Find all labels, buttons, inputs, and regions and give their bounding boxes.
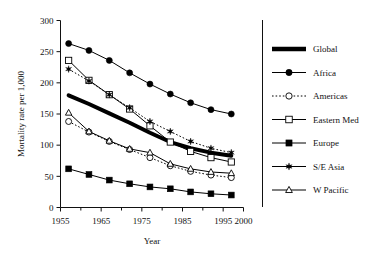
- mortality-rate-line-chart: 0501001502002503001955196519751985199520…: [0, 0, 389, 263]
- data-point-marker: [167, 139, 173, 145]
- y-axis-tick-label: 0: [49, 203, 54, 213]
- legend-label: Eastern Med: [313, 115, 359, 125]
- data-point-marker: [127, 70, 133, 76]
- x-axis-tick-label: 2000: [235, 216, 254, 226]
- data-point-marker: [188, 100, 194, 106]
- data-point-marker: [106, 57, 112, 63]
- x-axis-tick-label: 1955: [52, 216, 71, 226]
- y-axis-tick-label: 200: [40, 78, 54, 88]
- data-point-marker: [167, 91, 173, 97]
- data-point-marker: [86, 47, 92, 53]
- y-axis-title-text: Mortality rate per 1,000: [16, 71, 26, 157]
- x-axis-title: Year: [144, 236, 161, 246]
- legend-label: Africa: [313, 68, 336, 78]
- legend-label: Americas: [313, 91, 348, 101]
- data-point-marker: [228, 192, 234, 198]
- data-point-marker: [208, 107, 214, 113]
- x-axis-tick-label: 1985: [174, 216, 193, 226]
- y-axis-title: Mortality rate per 1,000: [16, 71, 26, 157]
- legend-label: Global: [313, 44, 338, 54]
- data-point-marker: [208, 191, 214, 197]
- data-point-marker: [286, 93, 292, 99]
- data-point-marker: [286, 140, 292, 146]
- x-axis-title-text: Year: [144, 236, 161, 246]
- legend-label: W Pacific: [313, 185, 349, 195]
- data-point-marker: [188, 189, 194, 195]
- legend-label: S/E Asia: [313, 162, 344, 172]
- y-axis-tick-label: 100: [40, 140, 54, 150]
- legend-label: Europe: [313, 138, 339, 148]
- x-axis-tick-label: 1975: [133, 216, 152, 226]
- data-point-marker: [147, 81, 153, 87]
- data-point-marker: [228, 159, 234, 165]
- data-point-marker: [66, 166, 72, 172]
- data-point-marker: [228, 111, 234, 117]
- data-point-marker: [147, 184, 153, 190]
- data-point-marker: [106, 177, 112, 183]
- data-point-marker: [208, 155, 214, 161]
- y-axis-tick-label: 250: [40, 47, 54, 57]
- data-point-marker: [66, 57, 72, 63]
- data-point-marker: [86, 172, 92, 178]
- data-point-marker: [286, 69, 292, 75]
- x-axis-tick-label: 1995: [214, 216, 233, 226]
- data-point-marker: [188, 148, 194, 154]
- data-point-marker: [286, 116, 293, 123]
- y-axis-tick-label: 50: [45, 172, 55, 182]
- data-point-marker: [66, 41, 72, 47]
- data-point-marker: [127, 181, 133, 187]
- chart-figure: 0501001502002503001955196519751985199520…: [0, 0, 389, 263]
- y-axis-tick-label: 150: [40, 109, 54, 119]
- y-axis-tick-label: 300: [40, 16, 54, 26]
- data-point-marker: [66, 118, 72, 124]
- data-point-marker: [147, 155, 153, 161]
- data-point-marker: [167, 186, 173, 192]
- x-axis-tick-label: 1965: [92, 216, 111, 226]
